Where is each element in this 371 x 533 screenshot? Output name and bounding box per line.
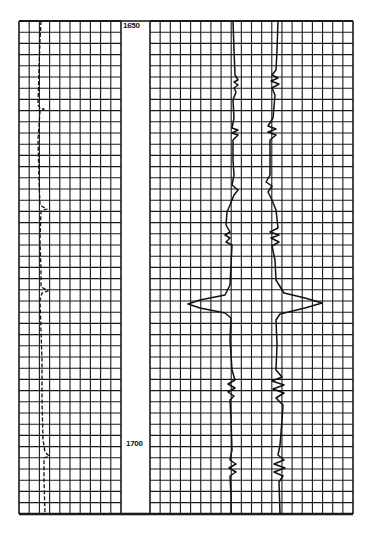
well-log-chart	[0, 0, 371, 533]
depth-label-1650: 1650	[123, 21, 140, 30]
depth-label-1700: 1700	[126, 439, 143, 448]
right-track	[150, 21, 353, 514]
chart-background	[0, 0, 371, 533]
